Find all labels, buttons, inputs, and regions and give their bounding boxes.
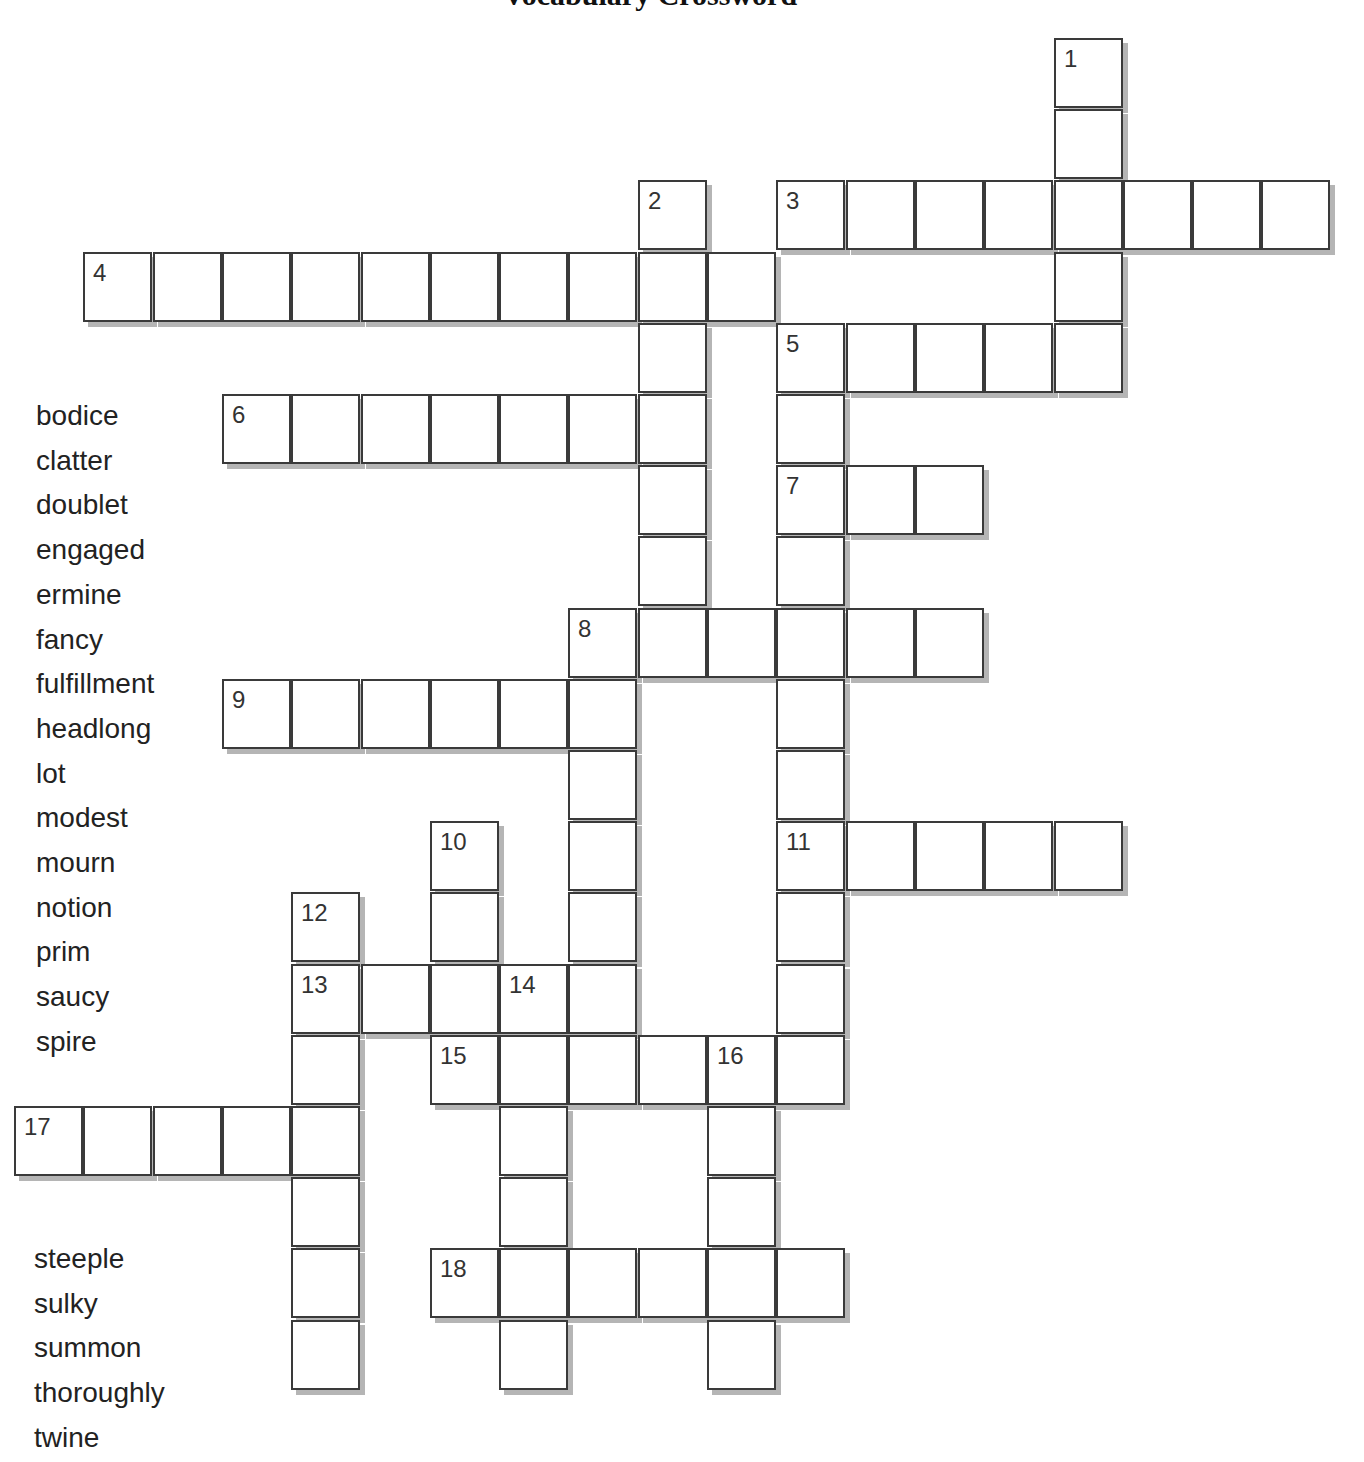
crossword-cell-face (846, 323, 915, 393)
crossword-cell-face: 17 (14, 1106, 83, 1176)
crossword-cell-face (638, 536, 707, 606)
crossword-cell-face (499, 1106, 568, 1176)
crossword-cell-face: 11 (776, 821, 845, 891)
crossword-cell-face: 14 (499, 964, 568, 1034)
word-bank-item: modest (36, 796, 154, 841)
word-bank-item: fancy (36, 618, 154, 663)
crossword-cell-face (291, 1106, 360, 1176)
crossword-cell-face (638, 394, 707, 464)
crossword-cell-face (984, 180, 1053, 250)
clue-number: 16 (717, 1042, 744, 1070)
crossword-cell-face (846, 465, 915, 535)
crossword-cell-face (1054, 252, 1123, 322)
crossword-cell-face (499, 252, 568, 322)
crossword-cell-face: 7 (776, 465, 845, 535)
crossword-cell-face (915, 608, 984, 678)
crossword-cell-face (776, 892, 845, 962)
clue-number: 18 (440, 1255, 467, 1283)
crossword-cell-face (915, 465, 984, 535)
crossword-cell-face (638, 465, 707, 535)
crossword-cell-face (499, 1035, 568, 1105)
crossword-cell-face: 6 (222, 394, 291, 464)
crossword-cell-face (499, 679, 568, 749)
clue-number: 2 (648, 187, 661, 215)
crossword-cell-face (638, 323, 707, 393)
crossword-cell-face (846, 180, 915, 250)
word-bank-item: spire (36, 1020, 154, 1065)
crossword-cell-face (361, 964, 430, 1034)
clue-number: 13 (301, 971, 328, 999)
crossword-cell-face (499, 1320, 568, 1390)
crossword-cell-face (1054, 180, 1123, 250)
crossword-cell-face (499, 1177, 568, 1247)
crossword-cell-face: 16 (707, 1035, 776, 1105)
clue-number: 7 (786, 472, 799, 500)
crossword-cell-face (568, 679, 637, 749)
crossword-cell-face (1054, 323, 1123, 393)
crossword-cell-face (430, 964, 499, 1034)
crossword-cell-face: 8 (568, 608, 637, 678)
clue-number: 17 (24, 1113, 51, 1141)
crossword-cell-face (707, 1248, 776, 1318)
crossword-cell-face (291, 252, 360, 322)
word-bank-item: ermine (36, 573, 154, 618)
clue-number: 4 (93, 259, 106, 287)
crossword-cell-face (1261, 180, 1330, 250)
crossword-cell-face (984, 323, 1053, 393)
word-bank-item: engaged (36, 528, 154, 573)
crossword-cell-face (499, 1248, 568, 1318)
crossword-cell-face (568, 821, 637, 891)
clue-number: 11 (786, 828, 811, 856)
crossword-cell-face (984, 821, 1053, 891)
word-bank-item: steeple (34, 1237, 165, 1282)
clue-number: 12 (301, 899, 328, 927)
clue-number: 14 (509, 971, 536, 999)
crossword-cell-face: 2 (638, 180, 707, 250)
word-bank-item: prim (36, 930, 154, 975)
crossword-cell-face (1192, 180, 1261, 250)
crossword-cell-face: 13 (291, 964, 360, 1034)
crossword-cell-face (499, 394, 568, 464)
clue-number: 10 (440, 828, 467, 856)
crossword-cell-face (776, 608, 845, 678)
clue-number: 6 (232, 401, 245, 429)
crossword-cell-face (430, 892, 499, 962)
crossword-cell-face (430, 394, 499, 464)
word-bank-item: sulky (34, 1282, 165, 1327)
crossword-cell-face (915, 180, 984, 250)
crossword-cell-face: 4 (83, 252, 152, 322)
word-bank-item: saucy (36, 975, 154, 1020)
crossword-cell-face: 18 (430, 1248, 499, 1318)
crossword-cell-face: 12 (291, 892, 360, 962)
crossword-cell-face (361, 394, 430, 464)
crossword-cell-face (638, 1035, 707, 1105)
crossword-cell-face (776, 679, 845, 749)
word-bank-item: notion (36, 886, 154, 931)
word-bank-item: headlong (36, 707, 154, 752)
clue-number: 3 (786, 187, 799, 215)
crossword-cell-face (568, 892, 637, 962)
crossword-cell-face (291, 1035, 360, 1105)
word-bank-item: mourn (36, 841, 154, 886)
crossword-cell-face (361, 252, 430, 322)
crossword-cell-face (638, 252, 707, 322)
word-bank-bottom: steeplesulkysummonthoroughlytwine (34, 1237, 165, 1461)
word-bank-item: clatter (36, 439, 154, 484)
word-bank-item: thoroughly (34, 1371, 165, 1416)
crossword-cell-face (430, 252, 499, 322)
crossword-cell-face: 10 (430, 821, 499, 891)
crossword-cell-face (776, 1248, 845, 1318)
crossword-cell-face (83, 1106, 152, 1176)
crossword-cell-face (291, 394, 360, 464)
crossword-cell-face (846, 608, 915, 678)
crossword-cell-face (776, 1035, 845, 1105)
crossword-cell-face (153, 1106, 222, 1176)
crossword-cell-face (222, 252, 291, 322)
crossword-cell-face (568, 394, 637, 464)
crossword-cell-face (776, 750, 845, 820)
crossword-cell-face (568, 1035, 637, 1105)
crossword-cell-face (1054, 821, 1123, 891)
clue-number: 5 (786, 330, 799, 358)
crossword-cell-face: 15 (430, 1035, 499, 1105)
clue-number: 9 (232, 686, 245, 714)
